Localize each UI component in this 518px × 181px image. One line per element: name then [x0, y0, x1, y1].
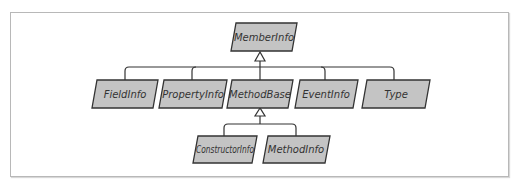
label-methodbase: MethodBase	[229, 89, 291, 100]
label-fieldinfo: FieldInfo	[104, 89, 147, 100]
class-hierarchy-diagram: MemberInfo FieldInfo PropertyInfo Method…	[0, 0, 518, 181]
connector-level2	[224, 124, 296, 136]
connector-eventinfo	[321, 67, 325, 80]
label-methodinfo: MethodInfo	[268, 144, 324, 155]
inheritance-arrow-icon	[255, 52, 265, 61]
label-type: Type	[384, 89, 408, 100]
label-eventinfo: EventInfo	[302, 89, 350, 100]
inheritance-arrow-icon	[255, 108, 265, 116]
connector-propertyinfo	[192, 67, 196, 80]
label-memberinfo: MemberInfo	[234, 32, 294, 43]
label-constructorinfo: ConstructorInfo	[196, 144, 254, 155]
label-propertyinfo: PropertyInfo	[162, 89, 224, 100]
